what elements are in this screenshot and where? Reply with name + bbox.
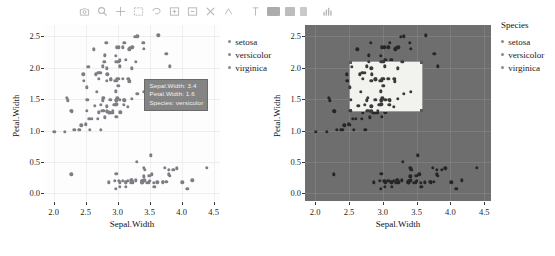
data-point[interactable] [400, 179, 403, 182]
data-point[interactable] [390, 180, 393, 183]
toggle-spike-lines-icon[interactable] [249, 5, 262, 18]
data-point[interactable] [93, 104, 96, 107]
data-point[interactable] [354, 117, 357, 120]
data-point[interactable] [435, 168, 438, 171]
zoom-out-icon[interactable] [186, 5, 199, 18]
data-point[interactable] [97, 111, 100, 114]
data-point[interactable] [440, 168, 443, 171]
data-point[interactable] [383, 185, 386, 188]
data-point[interactable] [172, 168, 175, 171]
selection-brush[interactable] [349, 61, 423, 111]
data-point[interactable] [390, 185, 393, 188]
legend-item-versicolor[interactable]: versicolor [501, 48, 544, 61]
data-point[interactable] [109, 77, 112, 80]
data-point[interactable] [314, 130, 317, 133]
data-point[interactable] [130, 46, 133, 49]
plotly-modebar[interactable] [78, 3, 334, 19]
zoom-icon[interactable] [96, 5, 109, 18]
data-point[interactable] [450, 181, 453, 184]
data-point[interactable] [122, 103, 125, 106]
data-point[interactable] [103, 116, 106, 119]
data-point[interactable] [142, 47, 145, 50]
data-point[interactable] [63, 130, 66, 133]
data-point[interactable] [85, 85, 88, 88]
data-point[interactable] [433, 52, 436, 55]
data-point[interactable] [156, 181, 159, 184]
data-point[interactable] [118, 59, 121, 62]
data-point[interactable] [113, 179, 116, 182]
data-point[interactable] [96, 117, 99, 120]
camera-icon[interactable] [78, 5, 91, 18]
data-point[interactable] [123, 41, 126, 44]
data-point[interactable] [175, 167, 178, 170]
data-point[interactable] [105, 66, 108, 69]
data-point[interactable] [109, 98, 112, 101]
legend-item-virginica[interactable]: virginica [228, 61, 271, 74]
data-point[interactable] [167, 168, 170, 171]
data-point[interactable] [124, 58, 127, 61]
data-point[interactable] [121, 77, 124, 80]
data-point[interactable] [97, 77, 100, 80]
data-point[interactable] [118, 180, 121, 183]
data-point[interactable] [368, 116, 371, 119]
data-point[interactable] [387, 46, 390, 49]
left-scatter-chart[interactable]: Petal.Width Sepal.Width Sepal.Width: 3.4… [0, 18, 285, 256]
data-point[interactable] [383, 180, 386, 183]
data-point[interactable] [134, 179, 137, 182]
data-point[interactable] [343, 123, 346, 126]
left-legend[interactable]: setosaversicolorvirginica [228, 35, 271, 74]
data-point[interactable] [348, 123, 351, 126]
data-point[interactable] [419, 181, 422, 184]
data-point[interactable] [69, 172, 72, 175]
data-point[interactable] [388, 41, 391, 44]
autoscale-icon[interactable] [204, 5, 217, 18]
data-point[interactable] [111, 109, 114, 112]
data-point[interactable] [136, 92, 139, 95]
left-plot-panel[interactable] [44, 25, 220, 201]
logo-icon[interactable] [321, 5, 334, 18]
data-point[interactable] [423, 181, 426, 184]
data-point[interactable] [431, 166, 434, 169]
data-point[interactable] [376, 109, 379, 112]
data-point[interactable] [85, 98, 88, 101]
data-point[interactable] [475, 166, 478, 169]
data-point[interactable] [136, 35, 139, 38]
data-point[interactable] [408, 41, 411, 44]
data-point[interactable] [150, 173, 153, 176]
data-point[interactable] [107, 181, 110, 184]
data-point[interactable] [126, 105, 129, 108]
data-point[interactable] [85, 109, 88, 112]
right-scatter-chart[interactable]: Petal.Width Sepal.Width Species setosave… [285, 18, 555, 256]
data-point[interactable] [416, 154, 419, 157]
data-point[interactable] [185, 187, 188, 190]
data-point[interactable] [124, 180, 127, 183]
data-point[interactable] [417, 173, 420, 176]
lasso-select-icon[interactable] [150, 5, 163, 18]
data-point[interactable] [444, 167, 447, 170]
data-point[interactable] [369, 41, 372, 44]
data-point[interactable] [134, 60, 137, 63]
legend-item-setosa[interactable]: setosa [228, 35, 271, 48]
data-point[interactable] [103, 60, 106, 63]
data-point[interactable] [149, 154, 152, 157]
data-point[interactable] [164, 180, 167, 183]
data-point[interactable] [181, 181, 184, 184]
data-point[interactable] [432, 180, 435, 183]
hover-compare-icon[interactable] [267, 7, 280, 16]
reset-axes-icon[interactable] [222, 5, 235, 18]
data-point[interactable] [165, 52, 168, 55]
data-point[interactable] [396, 46, 399, 49]
data-point[interactable] [124, 185, 127, 188]
data-point[interactable] [104, 41, 107, 44]
data-point[interactable] [460, 179, 463, 182]
box-select-icon[interactable] [132, 5, 145, 18]
data-point[interactable] [367, 54, 370, 57]
data-point[interactable] [349, 109, 352, 112]
data-point[interactable] [141, 41, 144, 44]
right-plot-panel[interactable] [305, 25, 491, 201]
data-point[interactable] [105, 79, 108, 82]
data-point[interactable] [420, 185, 423, 188]
data-point[interactable] [205, 166, 208, 169]
data-point[interactable] [90, 117, 93, 120]
data-point[interactable] [80, 123, 83, 126]
